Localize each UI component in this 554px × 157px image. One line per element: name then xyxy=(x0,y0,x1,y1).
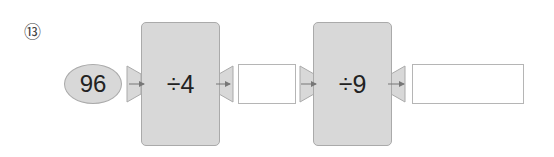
arrows xyxy=(0,0,554,157)
